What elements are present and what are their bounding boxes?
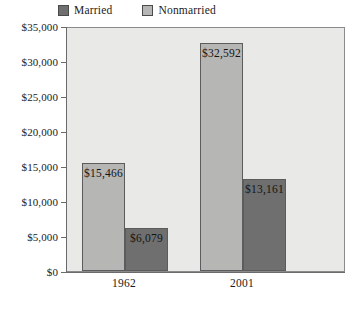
legend-swatch-married bbox=[58, 5, 69, 16]
bar-value-label: $15,466 bbox=[83, 167, 124, 180]
y-axis-tick-label: $0 bbox=[2, 267, 58, 278]
y-axis-tick bbox=[61, 237, 66, 238]
bar-nonmarried-1962: $15,466 bbox=[82, 163, 125, 271]
legend-item-nonmarried: Nonmarried bbox=[142, 4, 216, 16]
bar-chart: Married Nonmarried $15,466$6,079$32,592$… bbox=[0, 0, 355, 310]
x-axis-line bbox=[66, 272, 345, 273]
bar-nonmarried-2001: $32,592 bbox=[200, 43, 243, 271]
y-axis-tick bbox=[61, 272, 66, 273]
y-axis-tick-label-wrap: $5,000 bbox=[0, 232, 58, 243]
y-axis-tick bbox=[61, 167, 66, 168]
bar-married-2001: $13,161 bbox=[243, 179, 286, 271]
y-axis-tick-label-wrap: $15,000 bbox=[0, 162, 58, 173]
y-axis-tick bbox=[61, 132, 66, 133]
bar-value-label: $6,079 bbox=[126, 232, 167, 245]
bars-layer: $15,466$6,079$32,592$13,161 bbox=[67, 28, 344, 271]
y-axis-tick-label: $35,000 bbox=[2, 22, 58, 33]
plot-area: $15,466$6,079$32,592$13,161 bbox=[66, 27, 345, 272]
bar-value-label: $13,161 bbox=[244, 183, 285, 196]
y-axis-tick-label: $10,000 bbox=[2, 197, 58, 208]
legend-item-married: Married bbox=[58, 4, 112, 16]
chart-legend: Married Nonmarried bbox=[58, 2, 216, 18]
bar-value-label: $32,592 bbox=[201, 47, 242, 60]
y-axis-tick bbox=[61, 97, 66, 98]
y-axis-tick-label-wrap: $20,000 bbox=[0, 127, 58, 138]
y-axis-tick-label: $15,000 bbox=[2, 162, 58, 173]
y-axis-tick bbox=[61, 27, 66, 28]
y-axis-tick-label: $20,000 bbox=[2, 127, 58, 138]
legend-swatch-nonmarried bbox=[142, 5, 153, 16]
y-axis-tick bbox=[61, 62, 66, 63]
y-axis-tick-label-wrap: $25,000 bbox=[0, 92, 58, 103]
y-axis-tick-label-wrap: $10,000 bbox=[0, 197, 58, 208]
x-axis-category-1962: 1962 bbox=[84, 277, 164, 289]
y-axis-tick-label-wrap: $30,000 bbox=[0, 57, 58, 68]
y-axis-tick-label-wrap: $35,000 bbox=[0, 22, 58, 33]
y-axis-tick-label: $30,000 bbox=[2, 57, 58, 68]
y-axis-tick-label: $25,000 bbox=[2, 92, 58, 103]
bar-married-1962: $6,079 bbox=[125, 228, 168, 271]
y-axis-tick bbox=[61, 202, 66, 203]
x-axis-category-2001: 2001 bbox=[202, 277, 282, 289]
legend-label-nonmarried: Nonmarried bbox=[158, 4, 216, 16]
y-axis-line bbox=[66, 27, 67, 273]
y-axis-tick-label: $5,000 bbox=[2, 232, 58, 243]
legend-label-married: Married bbox=[74, 4, 112, 16]
y-axis-tick-label-wrap: $0 bbox=[0, 267, 58, 278]
